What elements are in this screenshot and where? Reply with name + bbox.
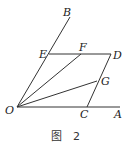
segment-og bbox=[17, 81, 97, 107]
label-f: F bbox=[78, 41, 87, 54]
caption-figure: 图 bbox=[51, 130, 62, 143]
label-g: G bbox=[101, 75, 110, 88]
geometry-figure: B E F D G O C A 图 2 bbox=[0, 0, 132, 150]
label-c: C bbox=[80, 108, 89, 121]
label-a: A bbox=[113, 108, 122, 121]
ray-ob bbox=[17, 17, 70, 107]
label-d: D bbox=[112, 49, 122, 62]
label-e: E bbox=[38, 48, 47, 61]
segment-of bbox=[17, 54, 81, 107]
caption-number: 2 bbox=[73, 130, 80, 143]
label-o: O bbox=[5, 104, 14, 117]
label-b: B bbox=[62, 6, 71, 19]
